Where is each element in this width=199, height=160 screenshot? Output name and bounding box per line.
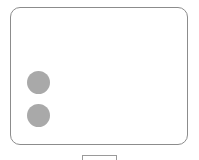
bottom-button[interactable] xyxy=(82,155,117,160)
content-panel xyxy=(10,7,188,145)
circle-indicator-2[interactable] xyxy=(27,104,50,127)
circle-indicator-1[interactable] xyxy=(27,71,50,94)
